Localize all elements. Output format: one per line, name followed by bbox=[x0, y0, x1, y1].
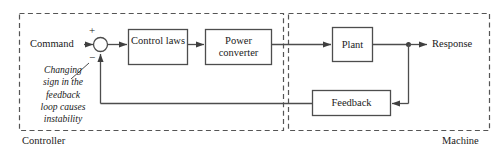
control-system-diagram: Command + − Control laws Power converter… bbox=[0, 0, 504, 155]
input-label-command: Command bbox=[30, 39, 74, 50]
summing-junction-minus-sign: − bbox=[89, 52, 95, 63]
zone-label-controller: Controller bbox=[22, 136, 65, 147]
annotation-line-3: feedback bbox=[30, 89, 96, 101]
annotation-line-5: instability bbox=[30, 113, 96, 125]
annotation-line-1: Changing bbox=[30, 64, 96, 76]
zone-label-machine: Machine bbox=[442, 136, 479, 147]
block-label-plant: Plant bbox=[333, 39, 373, 51]
output-label-response: Response bbox=[432, 39, 472, 50]
annotation-instability-note: Changing sign in the feedback loop cause… bbox=[30, 64, 96, 125]
block-label-power-converter: Power converter bbox=[206, 35, 272, 59]
annotation-line-4: loop causes bbox=[30, 101, 96, 113]
summing-junction-circle bbox=[94, 38, 108, 52]
summing-junction-plus-sign: + bbox=[89, 25, 95, 36]
annotation-line-2: sign in the bbox=[30, 76, 96, 88]
block-label-control-laws: Control laws bbox=[129, 35, 188, 47]
block-label-feedback: Feedback bbox=[313, 97, 391, 109]
